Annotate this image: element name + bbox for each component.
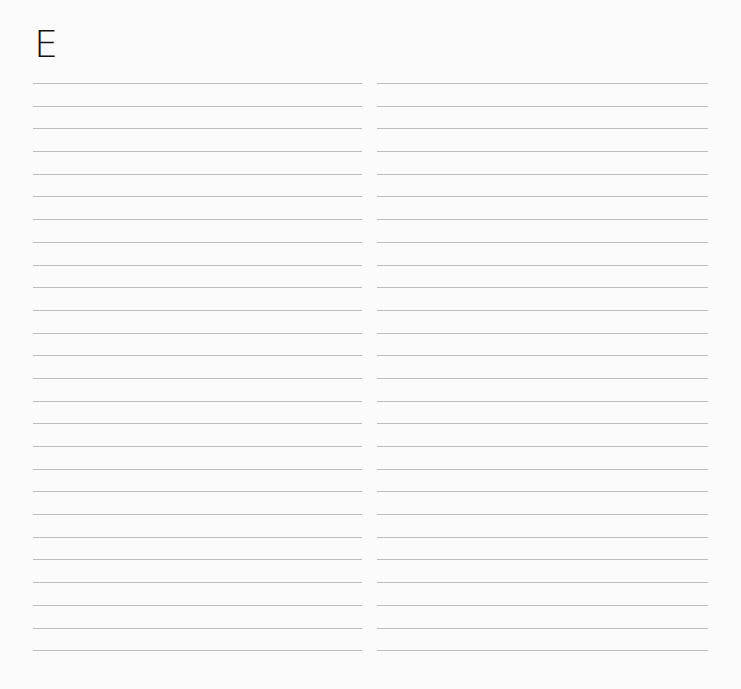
index-letter-heading: E: [34, 22, 58, 66]
ruled-line: [377, 310, 708, 311]
ruled-line: [377, 265, 708, 266]
ruled-line: [377, 174, 708, 175]
ruled-line: [33, 310, 362, 311]
ruled-line: [33, 378, 362, 379]
ruled-line: [33, 469, 362, 470]
ruled-line: [33, 446, 362, 447]
ruled-line: [377, 333, 708, 334]
ruled-line: [377, 106, 708, 107]
ruled-line: [377, 446, 708, 447]
ruled-line: [33, 650, 362, 651]
ruled-line: [33, 265, 362, 266]
ruled-line: [33, 605, 362, 606]
ruled-line: [377, 582, 708, 583]
ruled-line: [377, 469, 708, 470]
ruled-line: [377, 514, 708, 515]
ruled-line: [377, 355, 708, 356]
ruled-line: [377, 401, 708, 402]
left-lined-column: [33, 83, 362, 673]
ruled-line: [33, 333, 362, 334]
ruled-line: [33, 196, 362, 197]
ruled-line: [377, 537, 708, 538]
ruled-line: [377, 605, 708, 606]
ruled-line: [377, 151, 708, 152]
right-lined-column: [377, 83, 708, 673]
ruled-line: [33, 355, 362, 356]
ruled-line: [33, 514, 362, 515]
ruled-line: [33, 537, 362, 538]
ruled-line: [33, 491, 362, 492]
ruled-line: [33, 128, 362, 129]
ruled-line: [33, 242, 362, 243]
ruled-line: [377, 423, 708, 424]
ruled-line: [377, 196, 708, 197]
ruled-line: [377, 628, 708, 629]
ruled-line: [377, 491, 708, 492]
ruled-line: [33, 219, 362, 220]
ruled-line: [377, 287, 708, 288]
ruled-line: [377, 128, 708, 129]
ruled-line: [33, 106, 362, 107]
ruled-line: [33, 83, 362, 84]
ruled-line: [33, 401, 362, 402]
ruled-line: [377, 83, 708, 84]
ruled-line: [33, 174, 362, 175]
ruled-line: [33, 423, 362, 424]
ruled-line: [377, 219, 708, 220]
ruled-line: [33, 582, 362, 583]
ruled-line: [377, 559, 708, 560]
ruled-line: [33, 151, 362, 152]
ruled-line: [33, 628, 362, 629]
ruled-line: [377, 378, 708, 379]
ruled-line: [377, 650, 708, 651]
ruled-line: [377, 242, 708, 243]
ruled-line: [33, 287, 362, 288]
ruled-line: [33, 559, 362, 560]
